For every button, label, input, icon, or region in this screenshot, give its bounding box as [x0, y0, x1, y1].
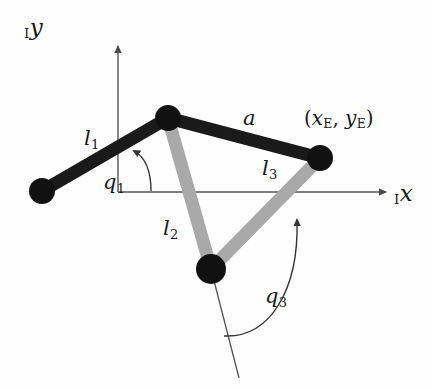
x-axis-label-symbol: x	[400, 180, 413, 206]
coord-y-subscript: E	[356, 116, 365, 131]
coord-comma: ,	[332, 106, 345, 130]
angle-q1-arc	[134, 151, 151, 191]
linkage-drawing	[0, 0, 432, 389]
coord-y-symbol: y	[345, 106, 356, 130]
coord-open-paren: (	[304, 106, 312, 130]
angle-q3-label-symbol: q	[265, 284, 278, 308]
link-l3-label: l3	[262, 158, 277, 181]
lower-joint-reference-line	[211, 269, 239, 378]
link-l2-label-subscript: 2	[170, 227, 179, 242]
angle-q1-label: q1	[103, 172, 125, 195]
link-l3-label-subscript: 3	[269, 167, 278, 182]
end-effector-coordinates-label: (xE, yE)	[304, 108, 374, 131]
link-l2-label: l2	[163, 218, 178, 241]
y-axis-label: Iy	[24, 16, 43, 40]
link-l2-shape	[168, 118, 211, 269]
end-effector-joint	[307, 145, 333, 171]
coord-x-symbol: x	[312, 106, 323, 130]
angle-q1-label-subscript: 1	[116, 181, 125, 196]
base-joint	[29, 178, 55, 204]
link-l2-label-symbol: l	[163, 216, 170, 240]
coord-x-subscript: E	[323, 116, 332, 131]
link-l3-label-symbol: l	[262, 156, 269, 180]
kinematic-diagram: Iy Ix l1 a l2 l3 q1 q3 (xE, yE)	[0, 0, 432, 389]
link-l1-label-symbol: l	[84, 126, 91, 150]
lower-joint	[196, 254, 226, 284]
link-a-label-symbol: a	[243, 106, 256, 130]
link-l1-label: l1	[84, 128, 99, 151]
link-a-label: a	[243, 108, 256, 129]
x-axis-label: Ix	[394, 182, 413, 206]
angle-q3-label: q3	[265, 286, 287, 309]
y-axis-label-symbol: y	[30, 14, 43, 40]
upper-joint	[155, 105, 181, 131]
link-l1-label-subscript: 1	[91, 137, 100, 152]
angle-q3-label-subscript: 3	[278, 295, 287, 310]
angle-q1-label-symbol: q	[103, 170, 116, 194]
coord-close-paren: )	[366, 106, 374, 130]
